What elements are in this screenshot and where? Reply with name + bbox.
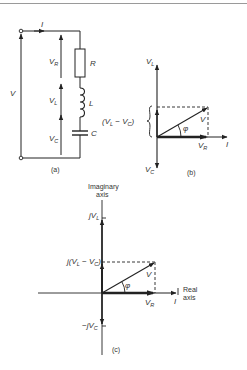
real-axis-label: axis	[183, 294, 196, 301]
panel-c-caption: (c)	[112, 346, 120, 354]
capacitor-label: C	[91, 129, 97, 138]
vl-minus-vc-label: (VL − VC)	[102, 117, 135, 127]
resistor	[75, 49, 85, 77]
jvl-label: jVL	[88, 211, 99, 221]
brace	[147, 106, 152, 137]
panel-b-caption: (b)	[187, 169, 196, 177]
vr-label: VR	[145, 298, 154, 308]
vl-label: VL	[146, 57, 154, 67]
neg-jvc-label: −jVC	[82, 321, 98, 331]
inductor-label: L	[89, 99, 93, 108]
circuit-wire	[21, 31, 80, 49]
vr-label: VR	[198, 141, 207, 151]
j-vl-minus-vc-label: j(VL − VC)	[66, 257, 101, 267]
panel-a-circuit: I V R L C VR VL VC (a)	[10, 20, 97, 174]
vc-label: VC	[145, 165, 154, 175]
imaginary-axis-label: axis	[96, 191, 109, 198]
panel-a-caption: (a)	[51, 166, 60, 174]
phi-label: φ	[183, 124, 188, 133]
source-voltage-label: V	[10, 89, 16, 98]
terminal-top	[19, 29, 23, 33]
phi-label: φ	[125, 281, 130, 290]
current-label: I	[41, 20, 44, 29]
vl-drop-label: VL	[49, 96, 57, 106]
imaginary-axis-label: Imaginary	[88, 183, 119, 191]
current-label: I	[226, 140, 229, 149]
vr-arrowhead	[200, 135, 208, 140]
phi-arc	[178, 125, 181, 137]
vc-drop-label: VC	[49, 134, 58, 144]
inductor	[80, 88, 85, 117]
real-axis-label: Real	[183, 286, 198, 293]
vr-arrowhead	[147, 290, 155, 296]
panel-c-complex-plane: Imaginary axis jVL j(VL − VC) −jVC Real …	[38, 183, 198, 355]
terminal-bottom	[19, 156, 23, 160]
phasor-diagram-figure: I V R L C VR VL VC (a) VL VC I	[0, 0, 247, 370]
v-label: V	[146, 270, 152, 279]
panel-b-phasor: VL VC I VR V φ (VL − VC) (b)	[102, 57, 229, 177]
current-label: I	[174, 297, 177, 306]
vr-drop-label: VR	[49, 57, 58, 67]
resistor-label: R	[90, 59, 96, 68]
v-label: V	[200, 115, 206, 124]
